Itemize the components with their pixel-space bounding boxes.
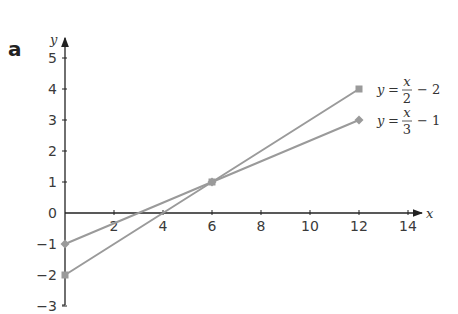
x-tick-label: 8 — [257, 218, 266, 234]
x-tick-label: 14 — [399, 218, 417, 234]
y-tick-label: −1 — [36, 236, 57, 252]
x-tick-label: 12 — [350, 218, 368, 234]
x-tick-label: 4 — [159, 218, 168, 234]
x-tick-label: 6 — [208, 218, 217, 234]
svg-text:x: x — [403, 74, 411, 89]
y-tick-label: 3 — [48, 112, 57, 128]
svg-text:=: = — [388, 82, 399, 97]
square-marker-icon — [62, 272, 69, 279]
svg-text:y: y — [376, 113, 385, 128]
svg-text:− 1: − 1 — [417, 113, 440, 128]
y-tick-label: 5 — [48, 50, 57, 66]
svg-text:x: x — [403, 105, 411, 120]
series-labels: y=x2− 2y=x3− 1 — [376, 74, 440, 137]
x-tick-label: 2 — [110, 218, 119, 234]
x-axis-label: x — [426, 206, 434, 221]
x-tick-label: 10 — [301, 218, 319, 234]
part-label: a — [8, 37, 22, 61]
square-marker-icon — [356, 86, 363, 93]
line-chart: a x y 2468101214 −3−2−1012345 y=x2− 2y=x… — [0, 0, 458, 314]
y-tick-label: 4 — [48, 81, 57, 97]
y-tick-label: 0 — [48, 205, 57, 221]
svg-text:=: = — [388, 113, 399, 128]
y-tick-label: 2 — [48, 143, 57, 159]
y-tick-label: −2 — [36, 267, 57, 283]
svg-text:3: 3 — [403, 122, 411, 137]
svg-text:2: 2 — [403, 91, 411, 106]
svg-text:− 2: − 2 — [417, 82, 440, 97]
svg-text:y: y — [376, 82, 385, 97]
series-group — [61, 86, 364, 279]
series-label: y=x2− 2 — [376, 74, 440, 106]
series-label: y=x3− 1 — [376, 105, 440, 137]
y-axis-label: y — [49, 32, 58, 47]
y-tick-label: 1 — [48, 174, 57, 190]
diamond-marker-icon — [355, 116, 364, 125]
y-tick-label: −3 — [36, 298, 57, 314]
diamond-marker-icon — [61, 240, 70, 249]
